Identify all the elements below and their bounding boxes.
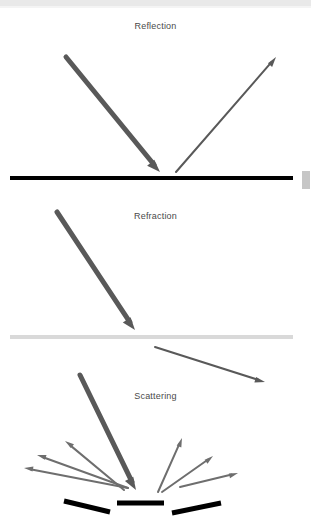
- refracted-ray-arrow-head: [254, 377, 265, 382]
- incident-ray-arrow: [66, 57, 160, 172]
- panel-caption-refraction: Refraction: [0, 211, 311, 221]
- reflected-ray-arrow: [176, 57, 276, 172]
- incident-ray-arrow-shaft: [66, 57, 154, 165]
- optical-phenomena-diagram: [0, 0, 311, 520]
- panel-refraction: [10, 212, 293, 382]
- incident-ray-arrow-shaft: [57, 212, 130, 322]
- scattered-ray-arrow-1-head: [24, 467, 33, 472]
- scattered-ray-arrow-5: [162, 456, 213, 492]
- vertical-scrollbar-thumb[interactable]: [302, 171, 310, 189]
- scattered-ray-arrow-6-head: [229, 473, 238, 478]
- refracted-ray-arrow-shaft: [155, 347, 258, 380]
- incident-ray-arrow: [57, 212, 135, 330]
- scattered-ray-arrow-5-head: [205, 456, 213, 464]
- scattered-ray-arrow-2-head: [37, 455, 47, 460]
- reflected-ray-arrow-shaft: [176, 62, 271, 172]
- incident-ray-arrow-head: [123, 317, 135, 330]
- scattered-ray-arrow-1-shaft: [30, 469, 128, 488]
- diagram-page: Reflection Refraction Scattering: [0, 0, 311, 520]
- scattered-ray-arrow-6: [180, 473, 238, 487]
- refracted-ray-arrow: [155, 347, 265, 382]
- scattered-ray-arrow-5-shaft: [162, 460, 208, 492]
- panel-reflection: [10, 57, 293, 178]
- rough-surface-segment-right: [172, 503, 221, 513]
- panel-caption-reflection: Reflection: [0, 21, 311, 31]
- scattered-ray-arrow-6-shaft: [180, 475, 232, 487]
- rough-surface-segment-left: [64, 501, 110, 512]
- scattered-ray-arrow-4: [158, 438, 182, 492]
- scattered-ray-arrow-4-shaft: [158, 444, 179, 492]
- panel-caption-scattering: Scattering: [0, 391, 311, 401]
